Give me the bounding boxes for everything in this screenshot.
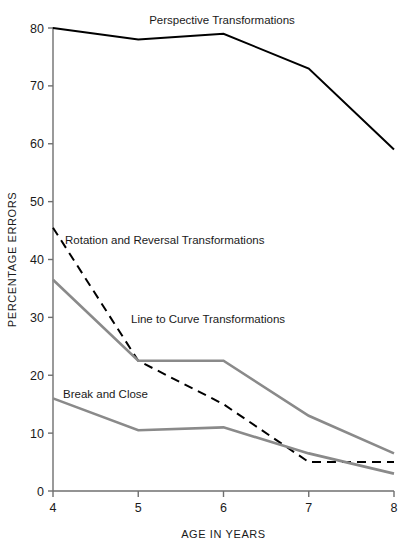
y-axis-tick-label: 10	[30, 427, 44, 441]
x-axis-tick-label: 8	[391, 501, 398, 515]
y-axis-title: PERCENTAGE ERRORS	[6, 192, 18, 327]
y-axis-tick-label: 30	[30, 311, 44, 325]
x-axis-title: AGE IN YEARS	[181, 528, 266, 540]
series-label-0: Perspective Transformations	[149, 14, 295, 26]
series-label-1: Rotation and Reversal Transformations	[65, 234, 265, 246]
y-axis-tick-label: 0	[37, 485, 44, 499]
series-label-2: Line to Curve Transformations	[131, 313, 285, 325]
x-axis-tick-label: 4	[50, 501, 57, 515]
y-axis-tick-label: 40	[30, 253, 44, 267]
series-line-3	[53, 398, 394, 473]
y-axis-tick-label: 80	[30, 22, 44, 36]
percentage-errors-line-chart: 0102030405060708045678AGE IN YEARSPERCEN…	[0, 0, 411, 540]
x-axis-tick-label: 5	[135, 501, 142, 515]
x-axis-tick-label: 6	[220, 501, 227, 515]
y-axis-tick-label: 50	[30, 195, 44, 209]
series-label-3: Break and Close	[63, 388, 148, 400]
x-axis-tick-label: 7	[305, 501, 312, 515]
y-axis-tick-label: 60	[30, 137, 44, 151]
y-axis-tick-label: 20	[30, 369, 44, 383]
chart-figure: 0102030405060708045678AGE IN YEARSPERCEN…	[0, 0, 411, 540]
series-line-0	[53, 28, 394, 150]
y-axis-tick-label: 70	[30, 79, 44, 93]
